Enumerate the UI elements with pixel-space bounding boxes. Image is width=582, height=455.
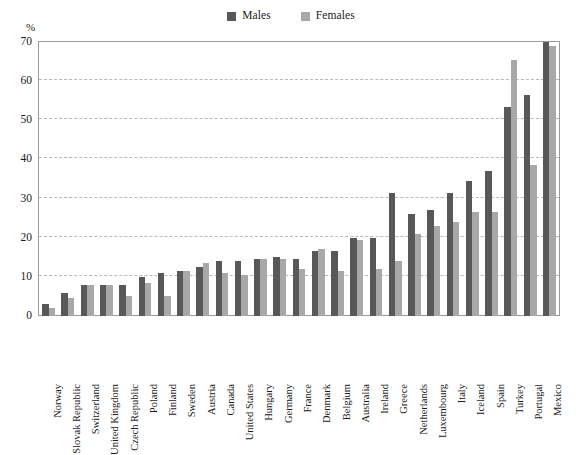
x-axis-labels: NorwaySlovak RepublicSwitzerlandUnited K…: [39, 318, 559, 387]
bar-female: [549, 46, 555, 316]
bar-group: [273, 42, 286, 316]
bar-group: [100, 42, 113, 316]
bar-female: [145, 283, 151, 316]
bar-female: [415, 234, 421, 316]
legend-label-females: Females: [316, 10, 355, 22]
x-axis-label: Spain: [496, 384, 507, 408]
bar-group: [119, 42, 132, 316]
x-axis-label: Italy: [457, 384, 468, 403]
x-axis-label: Austria: [207, 384, 218, 415]
bar-group: [504, 42, 517, 316]
bar-female: [434, 226, 440, 316]
bar-female: [87, 285, 93, 316]
x-axis-label: United Kingdom: [110, 384, 121, 455]
x-axis-label: Hungary: [264, 384, 275, 421]
x-axis-label: Iceland: [476, 384, 487, 415]
bar-female: [299, 269, 305, 316]
x-axis-label: Norway: [53, 384, 64, 418]
bar-female: [222, 273, 228, 316]
bar-group: [61, 42, 74, 316]
bar-female: [530, 165, 536, 316]
bar-group: [216, 42, 229, 316]
x-axis-label: Sweden: [187, 384, 198, 417]
bar-group: [350, 42, 363, 316]
x-axis-label: Turkey: [515, 384, 526, 414]
y-tick-label-10: 10: [2, 271, 32, 283]
chart-legend: Males Females: [0, 7, 582, 25]
x-axis-label: Luxembourg: [438, 384, 449, 438]
y-tick-label-0: 0: [2, 310, 32, 322]
bar-female: [511, 60, 517, 316]
bar-female: [164, 296, 170, 316]
bar-female: [106, 285, 112, 316]
x-axis-label: Greece: [399, 384, 410, 414]
x-axis-label: Germany: [284, 384, 295, 423]
x-axis-label: France: [303, 384, 314, 413]
bar-group: [466, 42, 479, 316]
legend-label-males: Males: [242, 10, 271, 22]
bar-group: [524, 42, 537, 316]
bar-group: [408, 42, 421, 316]
bar-group: [158, 42, 171, 316]
bar-female: [260, 259, 266, 316]
x-axis-label: Czech Republic: [130, 384, 141, 451]
bar-group: [235, 42, 248, 316]
bar-female: [492, 212, 498, 316]
bar-group: [81, 42, 94, 316]
bar-female: [376, 269, 382, 316]
x-axis-label: United States: [245, 384, 256, 440]
y-tick-label-70: 70: [2, 36, 32, 48]
bar-group: [293, 42, 306, 316]
y-tick-label-50: 50: [2, 114, 32, 126]
bar-female: [395, 261, 401, 316]
x-axis-label: Belgium: [342, 384, 353, 420]
x-axis-label: Slovak Republic: [72, 384, 83, 454]
bar-female: [453, 222, 459, 316]
bar-group: [543, 42, 556, 316]
legend-item-males: Males: [227, 10, 271, 22]
bar-group: [331, 42, 344, 316]
bar-group: [42, 42, 55, 316]
legend-swatch-males: [227, 12, 236, 21]
x-axis-label: Canada: [226, 384, 237, 416]
bar-female: [472, 212, 478, 316]
bar-female: [68, 298, 74, 316]
bar-female: [49, 308, 55, 316]
bar-group: [370, 42, 383, 316]
legend-item-females: Females: [301, 10, 355, 22]
bar-female: [357, 240, 363, 316]
bar-group: [139, 42, 152, 316]
bar-group: [254, 42, 267, 316]
bar-female: [203, 263, 209, 316]
x-axis-label: Finland: [168, 384, 179, 416]
x-axis-label: Denmark: [322, 384, 333, 423]
y-axis-unit-label: %: [26, 22, 35, 33]
legend-swatch-females: [301, 12, 310, 21]
bar-female: [183, 271, 189, 316]
bars-layer: [39, 42, 559, 316]
bar-group: [447, 42, 460, 316]
bar-group: [312, 42, 325, 316]
bar-group: [389, 42, 402, 316]
bar-female: [318, 249, 324, 316]
x-axis-label: Poland: [149, 384, 160, 413]
bar-female: [126, 296, 132, 316]
x-axis-label: Netherlands: [419, 384, 430, 435]
bar-group: [485, 42, 498, 316]
y-tick-label-60: 60: [2, 75, 32, 87]
x-axis-label: Ireland: [380, 384, 391, 414]
bar-group: [427, 42, 440, 316]
bar-female: [280, 259, 286, 316]
y-tick-label-20: 20: [2, 232, 32, 244]
y-tick-label-40: 40: [2, 153, 32, 165]
bar-group: [196, 42, 209, 316]
bar-group: [177, 42, 190, 316]
bar-female: [338, 271, 344, 316]
bar-female: [241, 275, 247, 316]
x-axis-label: Mexico: [553, 384, 564, 416]
x-axis-label: Australia: [361, 384, 372, 423]
x-axis-label: Switzerland: [91, 384, 102, 434]
x-axis-label: Portugal: [534, 384, 545, 420]
y-tick-label-30: 30: [2, 193, 32, 205]
